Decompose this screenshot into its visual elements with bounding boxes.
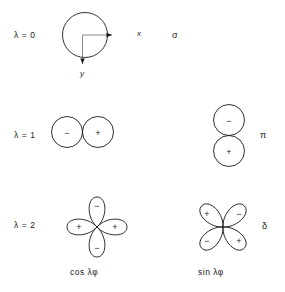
lambda-label-row-1: λ = 1 [14,131,36,140]
sign-top-right: − [236,209,241,219]
sign-plus-bottom: + [226,147,231,157]
sign-plus-right: + [95,128,100,138]
symmetry-label-sigma: σ [172,31,178,40]
caption-sin: sin λφ [198,268,224,277]
lambda-label-row-0: λ = 0 [14,31,36,40]
axis-x-label: x [137,30,141,38]
orbital-pi-sin-two-circles-vertical: − + [212,104,246,166]
orbital-delta-sin-four-lobe-diagonal: + − − + [188,192,258,262]
orbital-symmetry-figure: λ = 0 x y σ λ = 1 − + [0,0,285,292]
lambda-label-row-2: λ = 2 [14,221,36,230]
caption-cos: cos λφ [70,268,98,277]
sign-bottom-right: + [236,236,241,246]
symmetry-label-delta: δ [262,222,267,231]
sign-top-left: + [204,209,209,219]
sign-top: − [94,201,99,211]
orbital-pi-cos-two-circles-horizontal: − + [51,115,113,149]
sign-minus-top: − [226,116,231,126]
sign-minus-left: − [64,128,69,138]
axis-y-label: y [80,70,84,78]
sign-left: + [76,222,81,232]
symmetry-label-pi: π [260,131,266,140]
sign-right: + [112,222,117,232]
sign-bottom-left: − [204,236,209,246]
orbital-delta-cos-four-lobe-axial: − + + − [62,192,132,262]
sign-bottom: − [94,243,99,253]
coordinate-axes [60,8,150,78]
